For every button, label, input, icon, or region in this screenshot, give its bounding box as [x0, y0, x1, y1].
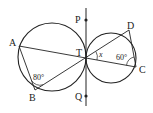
label-p: P [75, 14, 81, 25]
geometry-diagram: A B T D C P Q 80° 60° x [0, 0, 153, 113]
label-q: Q [75, 91, 83, 102]
label-t: T [76, 47, 82, 58]
right-circle [86, 33, 136, 83]
point-q [84, 94, 87, 97]
angle-label-x: x [98, 50, 103, 59]
segment-bd [35, 30, 129, 90]
angle-arc-x [96, 52, 97, 60]
angle-label-b: 80° [33, 73, 44, 82]
point-p [84, 18, 87, 21]
segment-dc [129, 30, 136, 67]
label-a: A [9, 37, 17, 48]
angle-label-c: 60° [116, 53, 127, 62]
diagram-canvas: A B T D C P Q 80° 60° x [0, 0, 153, 113]
label-c: C [139, 64, 146, 75]
label-d: D [127, 20, 134, 31]
angle-arc-c [127, 57, 135, 65]
segment-ab [19, 46, 35, 90]
label-b: B [29, 92, 36, 103]
